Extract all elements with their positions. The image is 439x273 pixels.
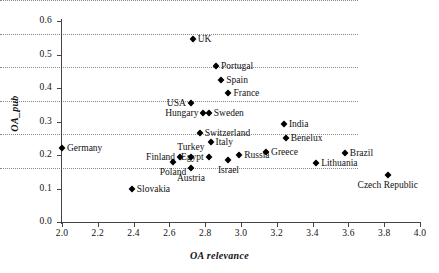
data-point-marker <box>58 144 65 151</box>
data-point-label: India <box>289 119 309 129</box>
x-axis-tick <box>169 222 170 227</box>
data-point-label: Sweden <box>214 108 244 118</box>
data-point-marker <box>205 153 212 160</box>
x-tick-label: 3.4 <box>298 228 328 238</box>
y-tick-label: 0.1 <box>22 183 52 193</box>
data-point-label: Spain <box>226 75 248 85</box>
y-tick-label: 0.2 <box>22 149 52 159</box>
x-tick-label: 3.8 <box>369 228 399 238</box>
data-point-label: France <box>233 88 259 98</box>
data-point-marker <box>341 149 348 156</box>
data-point-marker <box>236 151 243 158</box>
scatter-chart: 0.00.10.20.30.40.50.62.02.22.42.62.83.03… <box>0 0 439 273</box>
data-point-label: Czech Republic <box>358 180 418 190</box>
x-axis-tick <box>62 222 63 227</box>
data-point-marker <box>282 134 289 141</box>
x-tick-label: 4.0 <box>405 228 435 238</box>
data-point-label: Italy <box>216 137 233 147</box>
data-point-label: Benelux <box>291 133 323 143</box>
data-point-label: Israel <box>218 165 239 175</box>
x-tick-label: 3.2 <box>262 228 292 238</box>
data-point-marker <box>225 89 232 96</box>
data-point-marker <box>187 165 194 172</box>
x-tick-label: 2.4 <box>119 228 149 238</box>
y-axis-tick <box>57 155 62 156</box>
gridline-horizontal <box>0 0 358 1</box>
gridline-horizontal <box>0 67 358 68</box>
x-axis-tick <box>348 222 349 227</box>
data-point-label: Egypt <box>181 152 204 162</box>
x-axis-tick <box>134 222 135 227</box>
data-point-marker <box>207 138 214 145</box>
data-point-marker <box>225 156 232 163</box>
data-point-label: UK <box>198 34 212 44</box>
y-axis-tick <box>57 55 62 56</box>
y-tick-label: 0.0 <box>22 216 52 226</box>
x-tick-label: 3.0 <box>226 228 256 238</box>
y-tick-label: 0.4 <box>22 82 52 92</box>
data-point-label: Austria <box>177 173 205 183</box>
data-point-label: Germany <box>67 143 102 153</box>
x-axis-tick <box>384 222 385 227</box>
x-axis-tick <box>420 222 421 227</box>
data-point-label: Hungary <box>165 108 198 118</box>
data-point-marker <box>205 110 212 117</box>
y-tick-label: 0.3 <box>22 116 52 126</box>
gridline-horizontal <box>0 34 358 35</box>
x-tick-label: 3.6 <box>333 228 363 238</box>
x-axis-tick <box>313 222 314 227</box>
data-point-marker <box>169 158 176 165</box>
y-axis-tick <box>57 189 62 190</box>
x-tick-label: 2.6 <box>154 228 184 238</box>
data-point-label: Greece <box>271 147 298 157</box>
data-point-label: Slovakia <box>137 184 170 194</box>
data-point-label: Turkey <box>177 142 204 152</box>
data-point-marker <box>280 120 287 127</box>
y-axis-tick <box>57 88 62 89</box>
x-axis-tick <box>205 222 206 227</box>
data-point-label: Brazil <box>350 148 373 158</box>
data-point-marker <box>196 129 203 136</box>
x-tick-label: 2.2 <box>83 228 113 238</box>
x-axis-tick <box>98 222 99 227</box>
x-axis-tick <box>277 222 278 227</box>
data-point-label: USA <box>167 98 186 108</box>
y-tick-label: 0.6 <box>22 15 52 25</box>
data-point-label: Lithuania <box>321 158 357 168</box>
y-axis-tick <box>57 21 62 22</box>
y-axis-tick <box>57 122 62 123</box>
x-axis-title: OA relevance <box>0 250 439 261</box>
y-axis-title: OA_pub <box>9 74 20 154</box>
data-point-marker <box>128 186 135 193</box>
data-point-marker <box>189 35 196 42</box>
x-tick-label: 2.0 <box>47 228 77 238</box>
y-tick-label: 0.5 <box>22 49 52 59</box>
x-tick-label: 2.8 <box>190 228 220 238</box>
data-point-label: Portugal <box>221 61 253 71</box>
data-point-marker <box>313 159 320 166</box>
x-axis-tick <box>241 222 242 227</box>
data-point-marker <box>218 76 225 83</box>
data-point-marker <box>212 62 219 69</box>
data-point-marker <box>384 172 391 179</box>
